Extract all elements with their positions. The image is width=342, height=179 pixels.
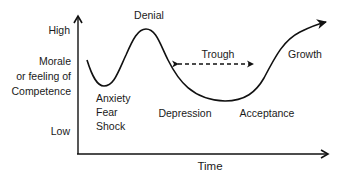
y-axis-high-label: High: [48, 24, 70, 36]
stage-trough-label: Trough: [202, 48, 235, 60]
stage-depression-label: Depression: [158, 107, 211, 119]
y-axis-title-line-3: Competence: [11, 85, 71, 97]
stage-acceptance-label: Acceptance: [240, 107, 295, 119]
stage-anxiety-label: Anxiety: [96, 92, 130, 104]
stage-growth-label: Growth: [288, 48, 322, 60]
change-curve-line: [87, 22, 326, 101]
y-axis-title-line-2: or feeling of: [16, 70, 71, 82]
y-axis-title-line-1: Morale: [39, 55, 71, 67]
change-curve-diagram: High Morale or feeling of Competence Low…: [0, 0, 342, 179]
stage-denial-label: Denial: [134, 9, 164, 21]
stage-shock-label: Shock: [96, 120, 125, 132]
stage-fear-label: Fear: [96, 106, 118, 118]
y-axis-low-label: Low: [51, 125, 70, 137]
x-axis-label: Time: [197, 160, 222, 172]
